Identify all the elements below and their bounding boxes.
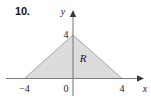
- figure-container: 10. y x −4 0 4 4 R: [0, 0, 151, 110]
- x-tick-label-minus4: −4: [19, 83, 30, 94]
- coordinate-plot: y x −4 0 4 4 R: [0, 0, 151, 110]
- y-axis-label: y: [60, 6, 66, 17]
- x-tick-label-0: 0: [64, 83, 69, 94]
- y-axis-arrow-icon: [70, 10, 76, 17]
- x-tick-label-4: 4: [120, 83, 125, 94]
- x-axis-label: x: [142, 83, 148, 94]
- region-label-R: R: [79, 52, 87, 64]
- x-axis-arrow-icon: [137, 75, 144, 82]
- y-tick-label-4: 4: [64, 29, 69, 40]
